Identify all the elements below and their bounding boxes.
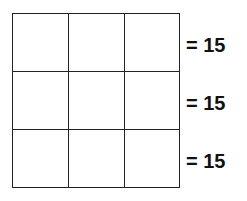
grid-cell-r2c1[interactable] xyxy=(13,72,69,130)
grid-cell-r3c1[interactable] xyxy=(13,130,69,187)
grid-cell-r2c3[interactable] xyxy=(125,72,179,130)
grid-cell-r2c2[interactable] xyxy=(69,72,125,130)
grid-cell-r1c2[interactable] xyxy=(69,14,125,72)
grid-cell-r1c1[interactable] xyxy=(13,14,69,72)
row-sum-3: = 15 xyxy=(186,151,225,171)
grid-cell-r3c2[interactable] xyxy=(69,130,125,187)
row-sum-1: = 15 xyxy=(186,35,225,55)
row-sum-2: = 15 xyxy=(186,93,225,113)
magic-square-grid xyxy=(12,13,180,188)
grid-cell-r3c3[interactable] xyxy=(125,130,179,187)
grid-cell-r1c3[interactable] xyxy=(125,14,179,72)
